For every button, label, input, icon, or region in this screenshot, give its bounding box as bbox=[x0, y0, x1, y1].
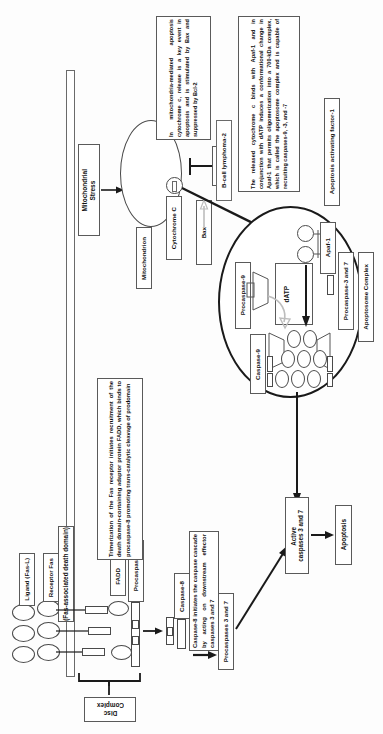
arrow-active-to-apoptosis bbox=[0, 0, 383, 734]
diagram-canvas: Mitochondrial Stress Mitochondrion Cytoc… bbox=[0, 0, 383, 734]
label-apoptosis: Apoptosis bbox=[335, 505, 352, 565]
